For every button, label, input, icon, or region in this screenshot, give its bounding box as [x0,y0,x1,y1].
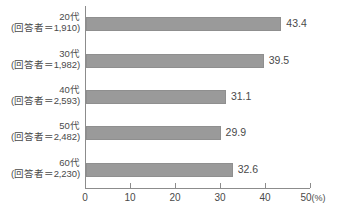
x-tick [220,183,221,188]
bar-value-label: 39.5 [269,54,289,66]
plot-area: 01020304050(%) 43.439.531.129.932.6 [85,6,310,188]
category-label: 20代(回答者＝1,910) [0,12,80,34]
x-tick-label: 40 [259,192,270,203]
category-respondents-label: (回答者＝2,230) [0,169,80,180]
category-label: 60代(回答者＝2,230) [0,158,80,180]
bar[interactable] [86,90,226,104]
category-label: 30代(回答者＝1,982) [0,49,80,71]
x-tick-label: 10 [124,192,135,203]
x-axis-line [85,188,310,189]
x-tick [85,183,86,188]
x-tick [175,183,176,188]
x-tick [265,183,266,188]
bar-chart: 20代(回答者＝1,910)30代(回答者＝1,982)40代(回答者＝2,59… [0,0,343,214]
bar[interactable] [86,163,233,177]
bar-value-label: 31.1 [231,90,251,102]
x-tick-label: 20 [169,192,180,203]
category-respondents-label: (回答者＝1,982) [0,60,80,71]
x-tick-label: 50(%) [300,192,325,203]
category-respondents-label: (回答者＝2,593) [0,96,80,107]
x-tick [130,183,131,188]
bar[interactable] [86,54,264,68]
x-tick [310,183,311,188]
category-respondents-label: (回答者＝1,910) [0,23,80,34]
axis-unit-label: (%) [312,193,326,203]
category-label: 40代(回答者＝2,593) [0,85,80,107]
category-respondents-label: (回答者＝2,482) [0,132,80,143]
x-tick-label: 30 [214,192,225,203]
x-tick-label: 0 [82,192,88,203]
bar-value-label: 32.6 [238,163,258,175]
category-age-label: 30代 [0,49,80,60]
bar-value-label: 43.4 [286,17,306,29]
bar[interactable] [86,126,221,140]
bar-value-label: 29.9 [226,126,246,138]
category-label: 50代(回答者＝2,482) [0,121,80,143]
bar[interactable] [86,17,281,31]
